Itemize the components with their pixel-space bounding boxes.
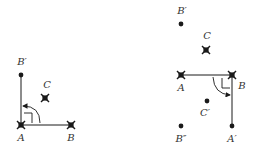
point-a-prime-dot-icon	[230, 124, 235, 129]
right-angle-marker	[222, 78, 230, 88]
label-b-double-prime: B″	[174, 133, 186, 144]
rotation-arc-icon	[23, 106, 40, 123]
label-c-prime: C′	[200, 107, 211, 118]
point-b-prime-dot-icon	[19, 73, 24, 78]
left-figure: A B B′ C	[16, 56, 75, 143]
point-c-marker-icon	[41, 94, 49, 102]
label-a: A	[176, 82, 184, 93]
label-a-prime: A′	[226, 133, 237, 144]
rotation-diagram: A B B′ C A B B′ C C′ B″ A′	[0, 0, 256, 151]
label-b: B	[237, 80, 245, 91]
label-c: C	[43, 79, 51, 90]
label-b: B	[66, 132, 74, 143]
right-figure: A B B′ C C′ B″ A′	[174, 5, 245, 144]
rotation-arc-icon	[213, 77, 230, 95]
point-b-double-prime-dot-icon	[179, 124, 184, 129]
label-b-prime: B′	[16, 56, 27, 67]
label-c: C	[203, 30, 211, 41]
point-c-marker-icon	[202, 46, 210, 54]
label-b-prime: B′	[176, 5, 187, 16]
point-b-prime-dot-icon	[179, 22, 184, 27]
label-a: A	[16, 132, 24, 143]
point-c-prime-dot-icon	[205, 99, 210, 104]
